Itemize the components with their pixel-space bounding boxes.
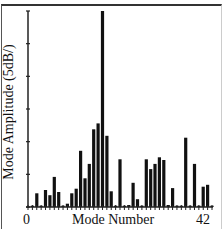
- bar-mode-29: [153, 164, 156, 207]
- bar-mode-4: [44, 190, 47, 207]
- bar-mode-13: [83, 178, 86, 207]
- bar-mode-19: [110, 191, 113, 207]
- bar-chart: [0, 0, 224, 230]
- bar-mode-7: [57, 192, 60, 207]
- bar-mode-33: [171, 188, 174, 207]
- bar-mode-40: [202, 187, 205, 207]
- bar-mode-38: [193, 164, 196, 207]
- bar-mode-14: [88, 164, 91, 207]
- bar-mode-15: [92, 129, 95, 207]
- bar-mode-12: [79, 151, 82, 207]
- bar-mode-2: [35, 193, 38, 207]
- bar-mode-31: [162, 160, 165, 207]
- bar-mode-17: [101, 11, 104, 207]
- bar-mode-24: [132, 183, 135, 207]
- bar-mode-30: [158, 157, 161, 207]
- x-tick-label-max: 42: [196, 212, 210, 228]
- bar-mode-18: [105, 136, 108, 207]
- x-axis-label: Mode Number: [72, 212, 154, 228]
- x-tick-label-min: 0: [23, 212, 30, 228]
- y-axis-label: Mode Amplitude (5dB/): [1, 42, 17, 182]
- bar-mode-28: [149, 169, 152, 207]
- bar-mode-36: [184, 138, 187, 207]
- bar-mode-16: [97, 123, 100, 207]
- bar-mode-10: [70, 193, 73, 207]
- bars: [31, 11, 214, 207]
- bar-mode-41: [206, 185, 209, 207]
- bar-mode-11: [75, 189, 78, 207]
- bar-mode-6: [53, 177, 56, 207]
- bar-mode-21: [118, 159, 121, 207]
- bar-mode-27: [145, 159, 148, 207]
